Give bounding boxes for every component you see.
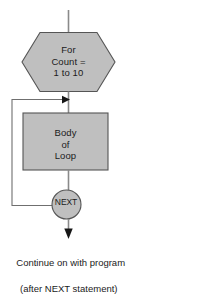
for-loop-header-hexagon [22,33,115,92]
loop-body-rectangle [23,113,108,170]
caption-line-1: Continue on with program [16,257,125,268]
next-statement-circle [52,190,81,219]
caption-line-2: (after NEXT statement) [11,282,191,295]
exit-arrowhead-icon [64,229,72,240]
flowchart-caption: Continue on with program (after NEXT sta… [11,243,191,298]
